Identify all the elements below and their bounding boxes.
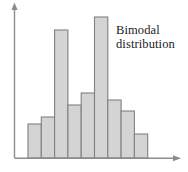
annotation-line-2: distribution	[116, 37, 175, 51]
bar-8	[121, 111, 134, 158]
bar-7	[108, 100, 121, 158]
bar-2	[41, 117, 54, 158]
bar-4	[68, 105, 81, 158]
bar-6	[95, 17, 108, 158]
bar-9	[134, 134, 147, 158]
bar-5	[81, 93, 94, 158]
bimodal-distribution-label: Bimodal distribution	[116, 23, 175, 51]
annotation-line-1: Bimodal	[116, 23, 175, 37]
y-axis-arrow-icon	[11, 3, 17, 11]
bar-1	[28, 124, 41, 158]
bimodal-distribution-figure: Bimodal distribution	[0, 0, 188, 172]
x-axis-arrow-icon	[173, 155, 181, 161]
bar-3	[55, 30, 68, 158]
